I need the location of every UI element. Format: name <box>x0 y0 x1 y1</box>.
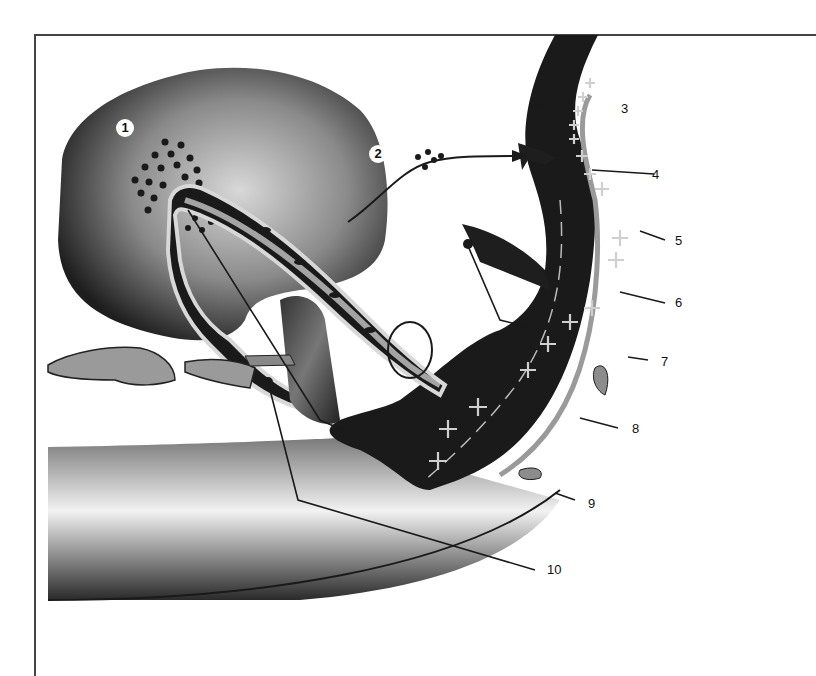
label-4: 4 <box>652 167 659 182</box>
branch-middle <box>462 224 550 290</box>
callout-circle-2: 2 <box>369 145 387 163</box>
label-9: 9 <box>588 496 595 511</box>
label-8: 8 <box>632 421 639 436</box>
cell-fragment-2 <box>185 360 255 388</box>
callout-circle-1: 1 <box>116 119 134 137</box>
cell-fragment-3 <box>245 355 295 366</box>
label-3: 3 <box>621 101 628 116</box>
label-7: 7 <box>661 354 668 369</box>
cell-fragment-1 <box>48 347 175 385</box>
label-6: 6 <box>675 295 682 310</box>
label-5: 5 <box>675 233 682 248</box>
label-10: 10 <box>547 562 561 577</box>
